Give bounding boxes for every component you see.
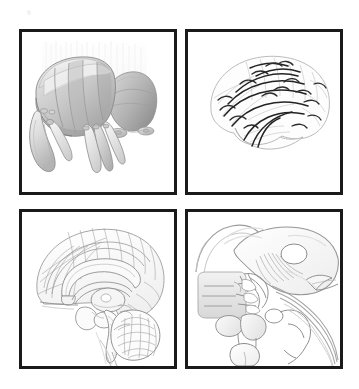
hypothalamus-pituitary-closeup-illustration bbox=[188, 212, 340, 366]
cerebellum bbox=[111, 310, 160, 360]
panel-bottom-right[interactable] bbox=[185, 209, 343, 369]
mammillary-body bbox=[265, 309, 283, 323]
midsagittal-brain-section-illustration bbox=[22, 212, 174, 366]
association-fiber-tracts-illustration bbox=[188, 32, 340, 192]
basal-ganglia-3d-illustration bbox=[22, 32, 174, 192]
panel-bottom-left[interactable] bbox=[19, 209, 177, 369]
panel-top-left[interactable] bbox=[19, 29, 177, 195]
thalamus bbox=[91, 288, 125, 312]
figure-sheet bbox=[0, 0, 359, 389]
panel-top-right[interactable] bbox=[185, 29, 343, 195]
paper-speck bbox=[27, 10, 31, 15]
panel-grid bbox=[19, 29, 343, 369]
